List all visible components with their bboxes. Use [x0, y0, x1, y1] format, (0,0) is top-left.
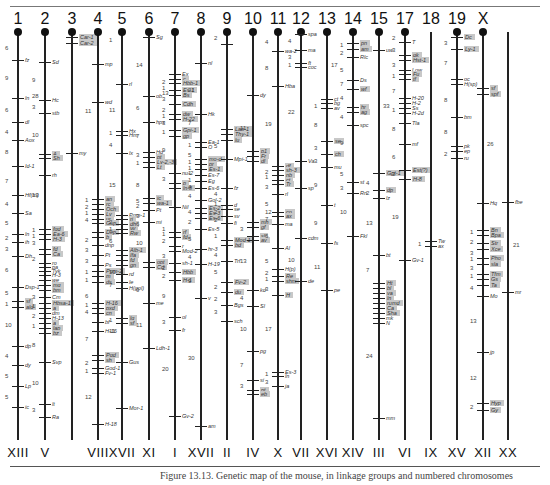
locus-tick	[39, 285, 51, 286]
locus-tick	[116, 224, 128, 225]
map-distance: 11	[109, 328, 115, 334]
map-distance: 2	[109, 219, 112, 225]
gene-label: ax	[438, 243, 444, 249]
locus-tick	[195, 63, 207, 64]
gene-label: Ta	[490, 282, 500, 288]
locus-tick	[169, 90, 181, 91]
map-distance: 3	[32, 240, 35, 246]
locus-tick	[272, 224, 284, 225]
gene-label: Hst-1	[412, 57, 429, 63]
chromosome-number: 4	[94, 10, 103, 28]
locus-tick	[221, 205, 233, 206]
map-distance: 26	[487, 141, 494, 147]
gene-label: sp	[308, 185, 314, 191]
map-distance: 1	[85, 368, 88, 374]
gene-label: Hc	[52, 97, 59, 103]
map-distance: 9	[136, 287, 139, 293]
chromosome-number: 10	[244, 10, 262, 28]
locus-tick	[272, 166, 284, 167]
map-distance: 8	[444, 97, 447, 103]
locus-tick	[247, 236, 259, 237]
locus-tick	[92, 237, 104, 238]
locus-tick	[321, 141, 333, 142]
locus-tick	[272, 51, 284, 52]
gene-label: Tr	[285, 181, 294, 187]
map-distance: 1	[109, 226, 112, 232]
locus-tick	[425, 241, 437, 242]
gene-label: gn	[129, 262, 139, 268]
map-distance: 2	[470, 239, 473, 245]
gene-label: sh	[105, 357, 115, 363]
locus-tick	[321, 205, 333, 206]
locus-tick	[247, 95, 259, 96]
map-distance: 2	[214, 35, 217, 41]
gene-label: ru	[464, 155, 469, 161]
locus-tick	[221, 134, 233, 135]
gene-label: Ldh-1	[156, 345, 170, 351]
locus-tick	[477, 274, 489, 275]
map-distance: 7	[340, 81, 343, 87]
gene-label: N	[386, 320, 390, 326]
locus-tick	[92, 322, 104, 323]
locus-tick	[399, 179, 411, 180]
locus-tick	[195, 164, 207, 165]
genetic-map-figure: 1fzlndlAoxId-1Hf(m)SalnihDhDsp-1sfalddpd…	[0, 0, 550, 485]
gene-label: t	[334, 202, 336, 208]
locus-tick	[373, 293, 385, 294]
locus-tick	[116, 153, 128, 154]
map-distance: 2	[162, 265, 165, 271]
map-distance: 10	[288, 257, 295, 263]
locus-tick	[92, 102, 104, 103]
gene-label: sv	[234, 213, 240, 219]
locus-tick	[12, 213, 24, 214]
locus-tick	[221, 129, 233, 130]
map-distance: 12	[470, 375, 477, 381]
locus-tick	[221, 209, 233, 210]
map-distance: 9	[314, 220, 317, 226]
locus-tick	[39, 313, 51, 314]
locus-tick	[477, 230, 489, 231]
linkage-group-label: IV	[246, 445, 259, 460]
gene-label: Bgs	[234, 302, 243, 308]
centromere-dot	[118, 28, 126, 36]
linkage-group-label: X	[273, 445, 282, 460]
gene-label: mr	[515, 289, 521, 295]
map-distance: 4	[188, 184, 191, 190]
map-distance: 6	[5, 267, 8, 273]
map-distance: 7	[5, 178, 8, 184]
locus-tick	[39, 229, 51, 230]
gene-label: sla	[490, 261, 501, 267]
map-distance: 7	[109, 282, 112, 288]
locus-tick	[321, 99, 333, 100]
map-distance: 6	[265, 233, 268, 239]
map-distance: 10	[340, 209, 347, 215]
linkage-group-label: XIII	[7, 445, 29, 460]
locus-tick	[143, 348, 155, 349]
locus-tick	[347, 182, 359, 183]
map-distance: 12	[85, 394, 92, 400]
gene-label: Car-2	[79, 40, 97, 46]
locus-tick	[169, 119, 181, 120]
locus-tick	[321, 290, 333, 291]
gene-label: dl	[260, 158, 268, 164]
locus-tick	[347, 57, 359, 58]
map-distance: 3	[32, 407, 35, 413]
gene-label: cdm	[308, 235, 318, 241]
map-distance: 5	[5, 220, 8, 226]
chromosome-number: 2	[41, 10, 50, 28]
gene-label: Sd	[52, 59, 59, 65]
map-distance: 4	[366, 180, 369, 186]
gene-label: H	[285, 292, 293, 298]
map-distance: 5	[340, 171, 343, 177]
gene-label: mp	[105, 61, 113, 67]
locus-tick	[169, 183, 181, 184]
map-distance: 11	[136, 322, 142, 328]
map-distance: 6	[392, 154, 395, 160]
map-distance: 2	[32, 313, 35, 319]
map-distance: 12	[265, 209, 272, 215]
gene-label: Hbb	[182, 269, 196, 275]
locus-tick	[169, 280, 181, 281]
map-distance: 2	[136, 203, 139, 209]
locus-tick	[195, 159, 207, 160]
locus-tick	[272, 295, 284, 296]
